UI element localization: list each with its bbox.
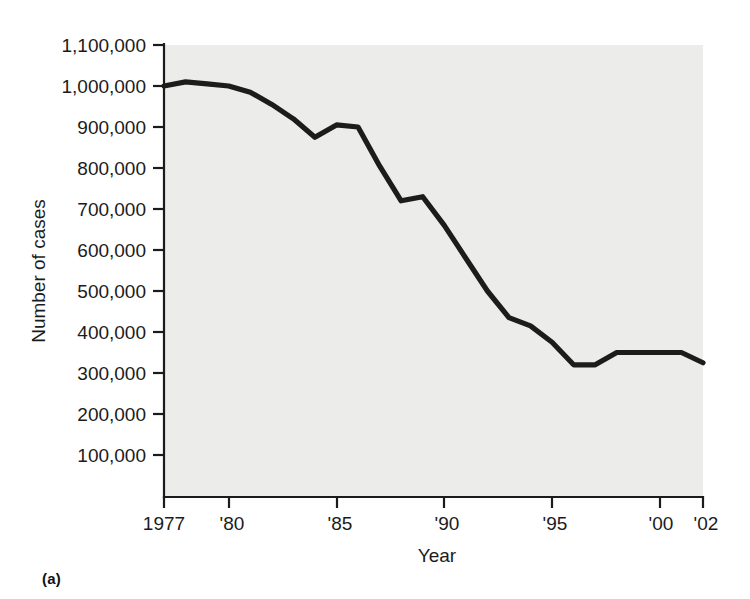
x-tick-label: '85 [328, 513, 353, 534]
line-chart: 1,100,000 1,000,000 900,000 800,000 700,… [0, 0, 750, 599]
y-tick-label: 100,000 [77, 445, 146, 466]
y-tick-label: 800,000 [77, 158, 146, 179]
y-tick-label: 900,000 [77, 117, 146, 138]
y-axis-tick-labels: 1,100,000 1,000,000 900,000 800,000 700,… [61, 35, 146, 466]
y-tick-label: 400,000 [77, 322, 146, 343]
y-tick-label: 1,100,000 [61, 35, 146, 56]
x-tick-label: '02 [694, 513, 719, 534]
y-tick-label: 300,000 [77, 363, 146, 384]
x-tick-label: 1977 [143, 513, 185, 534]
y-tick-label: 700,000 [77, 199, 146, 220]
x-axis-title: Year [418, 545, 457, 566]
y-tick-label: 1,000,000 [61, 76, 146, 97]
x-tick-label: '00 [649, 513, 674, 534]
y-tick-label: 200,000 [77, 404, 146, 425]
x-tick-label: '80 [220, 513, 245, 534]
x-axis-ticks [164, 497, 703, 508]
y-axis-ticks [153, 45, 164, 455]
x-tick-label: '95 [543, 513, 568, 534]
panel-label: (a) [42, 570, 61, 587]
y-tick-label: 500,000 [77, 281, 146, 302]
y-axis-title: Number of cases [28, 199, 49, 343]
x-axis-tick-labels: 1977 '80 '85 '90 '95 '00 '02 [143, 513, 719, 534]
figure-panel-a: 1,100,000 1,000,000 900,000 800,000 700,… [0, 0, 750, 599]
x-tick-label: '90 [435, 513, 460, 534]
plot-area-background [164, 45, 703, 497]
y-tick-label: 600,000 [77, 240, 146, 261]
